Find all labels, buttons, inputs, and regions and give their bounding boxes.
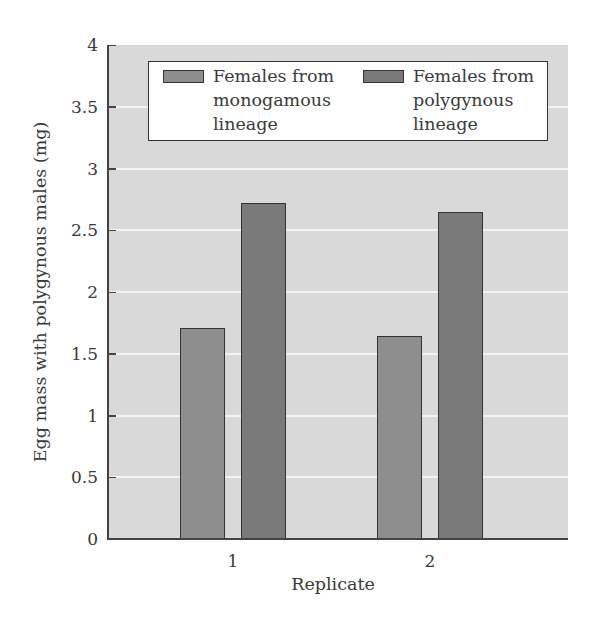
- legend-label: Females from monogamous lineage: [213, 64, 363, 136]
- bar-replicate-2-series-1: [377, 336, 422, 540]
- x-axis: [107, 538, 568, 540]
- y-tick-mark: [108, 539, 116, 541]
- y-tick-label: 1.5: [58, 344, 98, 364]
- x-tick-label: 2: [415, 551, 445, 571]
- gridline: [108, 229, 568, 231]
- y-tick-label: 2.5: [58, 220, 98, 240]
- y-tick-mark: [108, 230, 116, 232]
- gridline: [108, 291, 568, 293]
- y-tick-mark: [108, 353, 116, 355]
- gridline: [108, 415, 568, 417]
- y-tick-label: 0.5: [58, 467, 98, 487]
- x-axis-title: Replicate: [291, 574, 375, 594]
- y-axis-title: Egg mass with polygynous males (mg): [30, 122, 50, 463]
- bar-chart: 00.511.522.533.54 12 Females from monoga…: [0, 0, 602, 633]
- gridline: [108, 168, 568, 170]
- y-tick-label: 1: [58, 406, 98, 426]
- y-tick-mark: [108, 45, 116, 47]
- y-tick-label: 3: [58, 159, 98, 179]
- gridline: [108, 476, 568, 478]
- y-tick-mark: [108, 477, 116, 479]
- legend-swatch: [363, 70, 404, 83]
- gridline: [108, 353, 568, 355]
- y-tick-label: 0: [58, 529, 98, 549]
- bar-replicate-1-series-1: [180, 328, 225, 540]
- legend-swatch: [163, 70, 204, 83]
- y-tick-mark: [108, 292, 116, 294]
- legend-label: Females from polygynous lineage: [413, 64, 563, 136]
- y-tick-label: 4: [58, 35, 98, 55]
- y-tick-label: 2: [58, 282, 98, 302]
- legend: Females from monogamous lineage Females …: [148, 61, 548, 141]
- y-tick-mark: [108, 415, 116, 417]
- y-tick-mark: [108, 106, 116, 108]
- y-tick-mark: [108, 168, 116, 170]
- y-tick-label: 3.5: [58, 97, 98, 117]
- bar-replicate-2-series-2: [438, 212, 483, 540]
- x-tick-label: 1: [218, 551, 248, 571]
- bar-replicate-1-series-2: [241, 203, 286, 540]
